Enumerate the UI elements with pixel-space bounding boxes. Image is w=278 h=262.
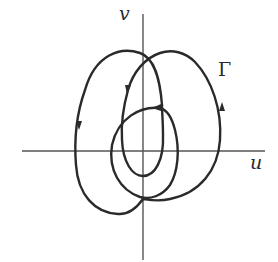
u-axis-label: u <box>250 153 262 172</box>
v-axis-label: v <box>119 4 130 23</box>
arrow-up-right-icon <box>219 102 225 111</box>
diagram-canvas <box>0 0 278 262</box>
right-outer-loop <box>122 51 221 200</box>
arrow-left-inner-icon <box>152 104 161 111</box>
phase-portrait-figure: v u Γ <box>0 0 278 262</box>
left-outer-loop <box>75 51 162 214</box>
gamma-label: Γ <box>218 60 231 79</box>
trajectory-gamma <box>75 51 220 214</box>
